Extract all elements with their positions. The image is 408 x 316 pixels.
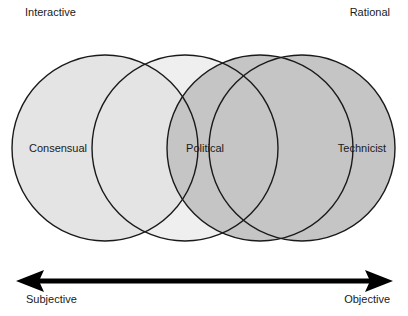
- axis-label-subjective: Subjective: [26, 294, 77, 305]
- region-label-technicist: Technicist: [338, 143, 386, 154]
- region-label-political: Political: [186, 143, 224, 154]
- axis-label-objective: Objective: [344, 294, 390, 305]
- region-label-consensual: Consensual: [29, 143, 87, 154]
- subjective-objective-axis: [16, 270, 393, 292]
- pole-label-interactive: Interactive: [25, 7, 76, 18]
- venn-diagram-figure: Interactive Rational Subjective Objectiv…: [0, 0, 408, 316]
- pole-label-rational: Rational: [350, 7, 390, 18]
- diagram-canvas: [0, 0, 408, 316]
